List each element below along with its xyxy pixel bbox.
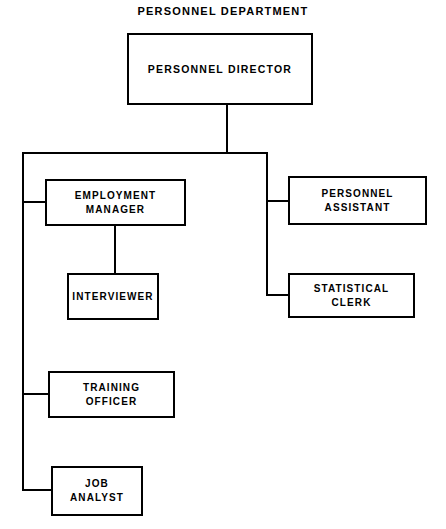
node-employment-manager-label: EMPLOYMENT MANAGER [71, 189, 161, 217]
connector-to-job-analyst [22, 489, 52, 491]
node-statistical-clerk[interactable]: STATISTICAL CLERK [288, 273, 415, 318]
node-interviewer[interactable]: INTERVIEWER [67, 273, 159, 320]
node-job-analyst-label: JOB ANALYST [66, 477, 128, 505]
node-personnel-assistant[interactable]: PERSONNEL ASSISTANT [288, 176, 427, 225]
org-chart-canvas: PERSONNEL DEPARTMENT PERSONNEL DIRECTOR … [0, 0, 446, 529]
page-title: PERSONNEL DEPARTMENT [0, 4, 446, 18]
connector-to-statistical-clerk [266, 294, 290, 296]
node-training-officer[interactable]: TRAINING OFFICER [48, 371, 175, 418]
node-training-officer-label: TRAINING OFFICER [79, 381, 144, 409]
connector-director-drop [226, 105, 228, 154]
node-statistical-clerk-label: STATISTICAL CLERK [310, 282, 394, 310]
node-employment-manager[interactable]: EMPLOYMENT MANAGER [45, 179, 186, 226]
connector-to-personnel-assistant [266, 200, 290, 202]
connector-to-training-officer [22, 393, 49, 395]
node-interviewer-label: INTERVIEWER [68, 290, 157, 304]
node-job-analyst[interactable]: JOB ANALYST [51, 466, 143, 516]
connector-to-interviewer [114, 226, 116, 274]
connector-distribution-bar [22, 152, 268, 154]
node-personnel-assistant-label: PERSONNEL ASSISTANT [317, 187, 397, 215]
node-personnel-director[interactable]: PERSONNEL DIRECTOR [127, 33, 313, 105]
connector-to-employment-manager [22, 201, 47, 203]
node-personnel-director-label: PERSONNEL DIRECTOR [144, 62, 296, 76]
connector-right-trunk [266, 152, 268, 296]
